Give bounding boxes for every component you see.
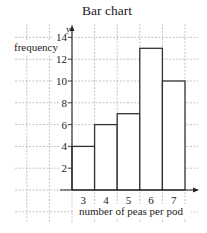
x-axis-label: number of peas per pod <box>79 205 183 217</box>
bar <box>117 114 140 190</box>
bar <box>162 81 185 190</box>
y-tick-label: 8 <box>62 97 68 109</box>
y-axis-label: frequency <box>14 41 58 53</box>
y-tick-label: 10 <box>56 75 68 87</box>
chart-title: Bar chart <box>82 3 132 18</box>
bar <box>72 146 95 190</box>
bar <box>95 125 118 190</box>
x-axis-arrow-icon <box>193 188 199 193</box>
y-tick-label: 6 <box>62 119 68 131</box>
y-axis-letter: y <box>66 24 71 34</box>
y-tick-label: 4 <box>62 140 68 152</box>
y-tick-label: 2 <box>62 162 68 174</box>
bar-chart: 246810121434567 Bar chart frequency y nu… <box>0 0 207 233</box>
bar <box>140 48 163 190</box>
y-tick-label: 12 <box>56 53 67 65</box>
bars <box>72 48 185 190</box>
